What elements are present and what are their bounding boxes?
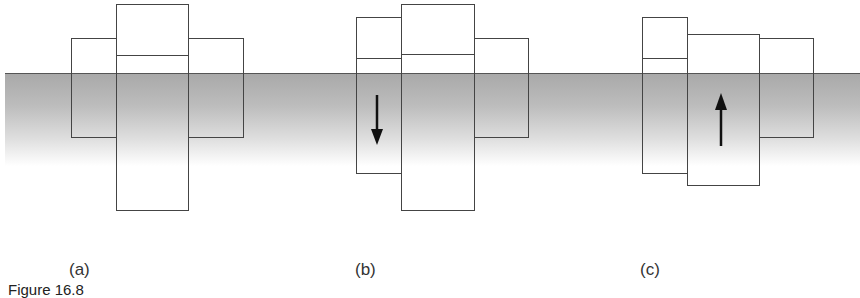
panel-a-center-block [116, 4, 189, 211]
panel-b-right-block [474, 38, 529, 138]
panel-a-left-block [71, 38, 117, 138]
panel-b-label: (b) [355, 260, 376, 280]
panel-b-left-divider [356, 58, 402, 59]
panel-b-center-divider [401, 54, 475, 55]
panel-b-center-block [401, 4, 475, 211]
panel-c-right-block [759, 38, 814, 138]
panel-a-right-block [188, 38, 244, 138]
panel-c-left-divider [642, 58, 688, 59]
figure-caption: Figure 16.8 [8, 281, 84, 298]
arrow-down-icon [370, 95, 384, 147]
panel-c-left-block [642, 17, 688, 174]
panel-c-label: (c) [640, 260, 660, 280]
panel-a-label: (a) [69, 260, 90, 280]
panel-a-center-divider [116, 55, 189, 56]
arrow-up-icon [714, 93, 728, 147]
